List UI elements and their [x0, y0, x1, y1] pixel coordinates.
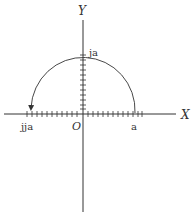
y-axis-label: Y: [78, 4, 87, 18]
point-label-a: a: [131, 121, 137, 132]
complex-plane-diagram: Y X O ja a jja: [0, 0, 195, 216]
point-label-ja: ja: [88, 47, 98, 58]
origin-label: O: [72, 120, 81, 133]
point-label-jja: jja: [20, 121, 33, 132]
x-axis-label: X: [180, 108, 190, 122]
